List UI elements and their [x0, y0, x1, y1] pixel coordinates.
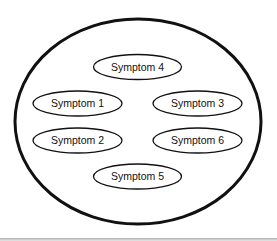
node-label: Symptom 6: [171, 134, 224, 146]
node-label: Symptom 1: [51, 97, 104, 109]
node-label: Symptom 4: [111, 61, 164, 73]
node-symptom-5: Symptom 5: [94, 164, 182, 189]
container-ellipse: [15, 19, 261, 224]
node-label: Symptom 2: [51, 134, 104, 146]
node-label: Symptom 3: [171, 97, 224, 109]
node-symptom-2: Symptom 2: [33, 128, 122, 153]
node-symptom-6: Symptom 6: [153, 128, 242, 153]
node-label: Symptom 5: [111, 170, 164, 182]
node-symptom-4: Symptom 4: [94, 55, 182, 80]
symptom-diagram: Symptom 4Symptom 1Symptom 3Symptom 2Symp…: [0, 0, 277, 241]
node-symptom-1: Symptom 1: [33, 91, 122, 116]
node-symptom-3: Symptom 3: [153, 91, 242, 116]
